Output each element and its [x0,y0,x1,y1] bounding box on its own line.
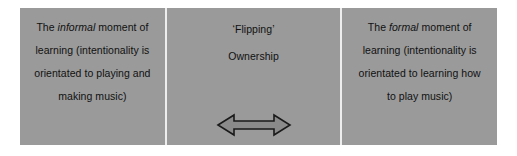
cell-text-block: The formal moment of learning (intention… [342,16,497,108]
three-column-table: The informal moment of learning (intenti… [20,8,497,145]
text-line: The formal moment of [346,16,493,39]
text-segment: learning (intentionality is [35,44,149,56]
text-emphasis: informal [58,21,96,33]
text-segment: Ownership [228,50,279,62]
text-line: orientated to playing and [24,62,161,85]
text-segment: ‘Flipping’ [233,23,275,35]
text-line: to play music) [346,85,493,108]
text-line: ‘Flipping’ [171,16,337,43]
text-line: learning (intentionality is [24,39,161,62]
text-segment: to play music) [387,90,452,102]
text-segment: learning (intentionality is [363,44,477,56]
text-segment: orientated to playing and [34,67,150,79]
text-segment: making music) [58,90,126,102]
text-line: Ownership [171,43,337,70]
table-cell-formal-moment: The formal moment of learning (intention… [342,8,497,145]
text-segment: The [36,21,57,33]
text-line: learning (intentionality is [346,39,493,62]
text-emphasis: formal [389,21,418,33]
double-headed-horizontal-arrow-icon [216,113,292,137]
text-line: The informal moment of [24,16,161,39]
text-segment: moment of [418,21,471,33]
cell-text-block: ‘Flipping’ Ownership [167,16,341,70]
text-line: making music) [24,85,161,108]
text-segment: moment of [95,21,148,33]
table-cell-flipping-ownership: ‘Flipping’ Ownership [167,8,341,145]
cell-text-block: The informal moment of learning (intenti… [20,16,165,108]
table-cell-informal-moment: The informal moment of learning (intenti… [20,8,165,145]
diagram-figure: The informal moment of learning (intenti… [0,0,517,156]
arrow-container [167,111,341,137]
text-segment: The [368,21,389,33]
text-line: orientated to learning how [346,62,493,85]
text-segment: orientated to learning how [359,67,481,79]
